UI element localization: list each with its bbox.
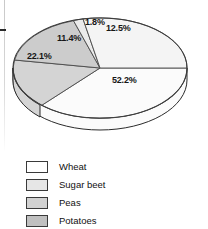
legend-swatch-potatoes xyxy=(26,215,48,227)
chart-plot-area: 52.2% 22.1% 12.5% 11.4% 1.8% xyxy=(0,0,208,150)
legend-label-wheat: Wheat xyxy=(59,162,86,172)
slice-label-1: 1.8% xyxy=(85,17,105,27)
slice-label-52: 52.2% xyxy=(112,75,137,85)
legend-label-peas: Peas xyxy=(59,198,81,208)
legend-label-sugar-beet: Sugar beet xyxy=(59,180,105,190)
legend-swatch-sugar-beet xyxy=(26,179,48,191)
legend-swatch-wheat xyxy=(26,161,48,173)
pie-top-face xyxy=(13,18,187,119)
slice-label-11: 11.4% xyxy=(57,33,81,43)
chart-legend: Wheat Sugar beet Peas Potatoes xyxy=(26,158,202,229)
legend-label-potatoes: Potatoes xyxy=(59,216,97,226)
legend-swatch-peas xyxy=(26,197,48,209)
slice-label-22: 22.1% xyxy=(27,51,52,61)
legend-item-potatoes[interactable]: Potatoes xyxy=(26,212,202,229)
legend-item-wheat[interactable]: Wheat xyxy=(26,158,202,175)
pie-chart-figure: 52.2% 22.1% 12.5% 11.4% 1.8% Wheat Sugar… xyxy=(0,0,208,229)
legend-item-peas[interactable]: Peas xyxy=(26,194,202,211)
slice-label-12: 12.5% xyxy=(106,23,131,33)
legend-item-sugar-beet[interactable]: Sugar beet xyxy=(26,176,202,193)
